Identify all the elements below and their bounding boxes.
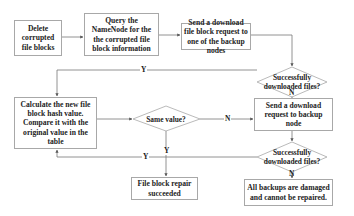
edge-label-check2-no: N	[288, 170, 295, 178]
node-send-request-label: Send a download file block request to on…	[184, 18, 248, 55]
node-query-label: Query the NameNode for the the corrupted…	[87, 16, 156, 53]
node-calculate: Calculate the new file block hash value.…	[14, 97, 97, 149]
node-failure: All backups are damaged and cannot be re…	[244, 179, 333, 206]
node-delete: Delete corrupted file blocks	[14, 20, 62, 56]
node-success-label: File block repair succeeded	[134, 179, 195, 197]
edge-label-check1-yes: Y	[140, 66, 147, 74]
edge-label-check2-yes: Y	[142, 153, 149, 161]
node-query: Query the NameNode for the the corrupted…	[84, 13, 159, 56]
node-delete-label: Delete corrupted file blocks	[17, 24, 59, 52]
edge-label-same-no: N	[224, 115, 231, 123]
node-success: File block repair succeeded	[131, 177, 198, 200]
edge-label-check1-no: N	[288, 89, 295, 97]
node-send-backup-label: Send a download request to backup node	[257, 101, 330, 129]
node-send-request: Send a download file block request to on…	[181, 23, 251, 50]
edge-label-same-yes: Y	[163, 147, 170, 155]
node-calculate-label: Calculate the new file block hash value.…	[17, 100, 94, 146]
node-send-backup: Send a download request to backup node	[254, 98, 333, 131]
node-failure-label: All backups are damaged and cannot be re…	[247, 183, 330, 201]
decision-check2-label: Successfully downloaded files?	[262, 147, 322, 167]
decision-same-value-label: Same value?	[138, 114, 194, 124]
